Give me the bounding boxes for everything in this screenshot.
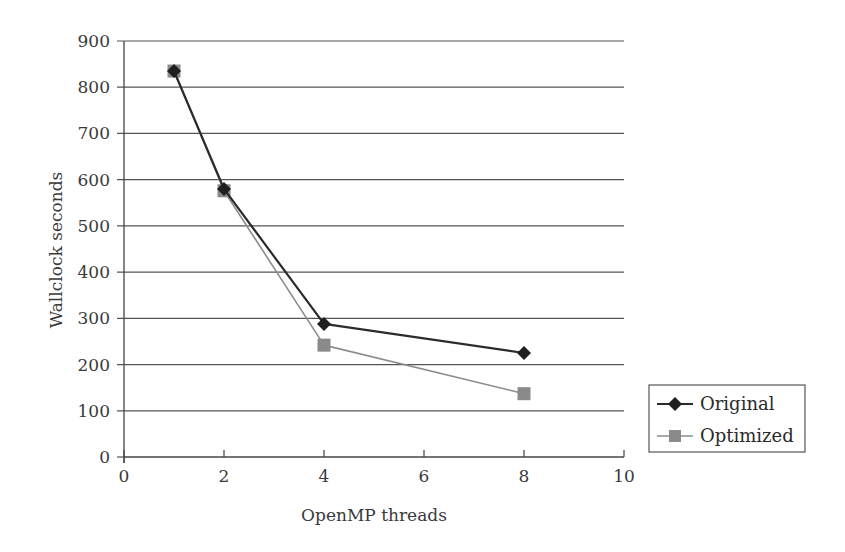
- y-tick-label: 600: [78, 170, 110, 190]
- y-tick-label: 100: [78, 401, 110, 421]
- x-tick-label: 2: [219, 466, 230, 486]
- square-marker-icon: [318, 339, 331, 352]
- legend-label-original: Original: [700, 393, 775, 414]
- x-tick-label: 10: [613, 466, 635, 486]
- legend-label-optimized: Optimized: [700, 425, 794, 446]
- axes: [124, 41, 624, 463]
- line-chart: 0100200300400500600700800900 0246810 Wal…: [0, 0, 845, 552]
- y-tick-label: 900: [78, 31, 110, 51]
- x-tick-label: 6: [419, 466, 430, 486]
- x-axis-ticks: 0246810: [119, 450, 635, 486]
- y-tick-label: 200: [78, 355, 110, 375]
- diamond-marker-icon: [517, 346, 531, 360]
- x-tick-label: 4: [319, 466, 330, 486]
- legend: Original Optimized: [649, 385, 805, 452]
- y-axis-ticks: 0100200300400500600700800900: [78, 31, 124, 467]
- y-tick-label: 700: [78, 123, 110, 143]
- x-tick-label: 0: [119, 466, 130, 486]
- series-line-original: [174, 71, 524, 353]
- y-tick-label: 500: [78, 216, 110, 236]
- y-axis-title: Wallclock seconds: [46, 172, 66, 329]
- y-tick-label: 300: [78, 308, 110, 328]
- y-tick-label: 800: [78, 77, 110, 97]
- gridlines: [117, 41, 624, 411]
- x-axis-title: OpenMP threads: [301, 505, 447, 525]
- data-series: [167, 64, 531, 400]
- y-tick-label: 0: [99, 447, 110, 467]
- square-marker-icon: [518, 387, 531, 400]
- x-tick-label: 8: [519, 466, 530, 486]
- square-marker-icon: [669, 430, 681, 442]
- y-tick-label: 400: [78, 262, 110, 282]
